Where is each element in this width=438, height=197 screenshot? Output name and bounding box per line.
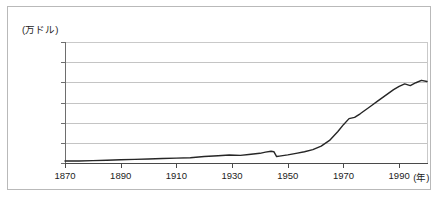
plot-area bbox=[65, 42, 428, 164]
chart-screenshot: (万ドル) 3.02.52.01.51.00.50.0 187018901910… bbox=[0, 0, 438, 197]
y-axis-unit-label: (万ドル) bbox=[22, 22, 58, 36]
x-axis-unit-label: (年) bbox=[413, 170, 429, 184]
chart-outer-frame: (万ドル) 3.02.52.01.51.00.50.0 187018901910… bbox=[7, 6, 431, 190]
x-axis-tick-label: 1930 bbox=[212, 170, 252, 181]
x-axis-tick-label: 1910 bbox=[156, 170, 196, 181]
x-axis-tick-mark bbox=[176, 164, 177, 168]
x-axis-tick-mark bbox=[399, 164, 400, 168]
y-axis-tick-mark bbox=[61, 103, 65, 104]
x-axis-tick-mark bbox=[343, 164, 344, 168]
data-series-line bbox=[65, 42, 428, 164]
y-axis-tick-mark bbox=[61, 123, 65, 124]
y-axis-tick-mark bbox=[61, 42, 65, 43]
y-axis-tick-mark bbox=[61, 82, 65, 83]
x-axis-tick-label: 1970 bbox=[323, 170, 363, 181]
x-axis-tick-mark bbox=[288, 164, 289, 168]
y-axis-tick-mark bbox=[61, 143, 65, 144]
x-axis-tick-mark bbox=[65, 164, 66, 168]
x-axis-tick-label: 1890 bbox=[101, 170, 141, 181]
x-axis-tick-label: 1950 bbox=[268, 170, 308, 181]
x-axis-tick-mark bbox=[232, 164, 233, 168]
y-axis-tick-mark bbox=[61, 62, 65, 63]
x-axis-tick-mark bbox=[121, 164, 122, 168]
x-axis-tick-label: 1870 bbox=[45, 170, 85, 181]
